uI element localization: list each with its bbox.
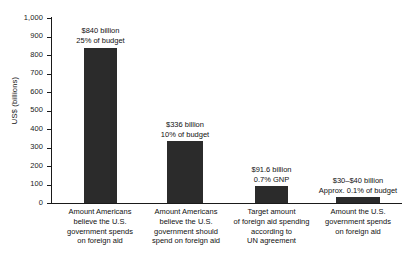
category-1-line-2: believe the U.S.: [56, 217, 144, 227]
category-label-4: Amount the U.S. government spends on for…: [315, 207, 401, 236]
y-tick-mark: [47, 148, 51, 149]
y-tick-mark: [47, 37, 51, 38]
x-axis-line: [51, 203, 402, 204]
category-3-line-2: of foreign aid spending: [223, 217, 320, 227]
y-tick-mark: [47, 203, 51, 204]
bar-3-value-line-1: $91.6 billion: [251, 165, 291, 175]
bar-1-value-line-1: $840 billion: [76, 26, 124, 36]
bar-group-2: $336 billion 10% of budget: [167, 18, 203, 203]
bar-1: [84, 48, 117, 203]
bar-2-value-line-1: $336 billion: [161, 120, 209, 130]
bar-group-3: $91.6 billion 0.7% GNP: [255, 18, 288, 203]
bar-4-value-line-1: $30–$40 billion: [319, 176, 397, 186]
category-1-line-1: Amount Americans: [56, 207, 144, 217]
y-tick-label: 200: [30, 161, 43, 170]
y-tick-mark: [47, 166, 51, 167]
y-tick-label: 800: [30, 50, 43, 59]
bar-2: [167, 141, 203, 203]
category-2-line-2: believe the U.S.: [140, 217, 232, 227]
y-tick-mark: [47, 129, 51, 130]
bar-2-value-label: $336 billion 10% of budget: [161, 120, 209, 139]
bar-4: [336, 197, 380, 204]
category-label-3: Target amount of foreign aid spending ac…: [223, 207, 320, 246]
y-tick-mark: [47, 111, 51, 112]
category-1-line-4: on foreign aid: [56, 236, 144, 246]
category-4-line-1: Amount the U.S.: [315, 207, 401, 217]
category-3-line-4: UN agreement: [223, 236, 320, 246]
y-tick-label: 300: [30, 142, 43, 151]
category-3-line-1: Target amount: [223, 207, 320, 217]
bar-3: [255, 186, 288, 203]
y-tick-mark: [47, 92, 51, 93]
y-tick-label: 100: [30, 179, 43, 188]
bar-3-value-line-2: 0.7% GNP: [251, 175, 291, 185]
bar-3-value-label: $91.6 billion 0.7% GNP: [251, 165, 291, 184]
category-1-line-3: government spends: [56, 227, 144, 237]
y-tick-mark: [47, 18, 51, 19]
y-tick-label: 500: [30, 105, 43, 114]
y-tick-mark: [47, 55, 51, 56]
bar-group-4: $30–$40 billion Approx. 0.1% of budget: [336, 18, 380, 203]
y-tick-label: 0: [39, 198, 43, 207]
bar-2-value-line-2: 10% of budget: [161, 130, 209, 140]
bar-group-1: $840 billion 25% of budget: [84, 18, 117, 203]
category-label-1: Amount Americans believe the U.S. govern…: [56, 207, 144, 246]
category-2-line-4: spend on foreign aid: [140, 236, 232, 246]
category-4-line-2: government spends: [315, 217, 401, 227]
category-label-2: Amount Americans believe the U.S. govern…: [140, 207, 232, 246]
y-tick-label: 1,000: [24, 13, 43, 22]
category-2-line-1: Amount Americans: [140, 207, 232, 217]
y-tick-label: 700: [30, 68, 43, 77]
bar-1-value-line-2: 25% of budget: [76, 36, 124, 46]
y-tick-label: 900: [30, 31, 43, 40]
y-tick-mark: [47, 74, 51, 75]
bar-1-value-label: $840 billion 25% of budget: [76, 26, 124, 45]
bar-4-value-line-2: Approx. 0.1% of budget: [319, 186, 397, 196]
category-2-line-3: government should: [140, 227, 232, 237]
y-axis-title: US$ (billions): [10, 51, 19, 151]
category-4-line-3: on foreign aid: [315, 227, 401, 237]
bar-4-value-label: $30–$40 billion Approx. 0.1% of budget: [319, 176, 397, 195]
bar-chart: US$ (billions) 0 100 200 300 400 500: [0, 0, 410, 262]
y-tick-label: 400: [30, 124, 43, 133]
y-tick-label: 600: [30, 87, 43, 96]
plot-area: 0 100 200 300 400 500 600 700: [51, 18, 402, 203]
y-tick-mark: [47, 185, 51, 186]
category-3-line-3: according to: [223, 227, 320, 237]
